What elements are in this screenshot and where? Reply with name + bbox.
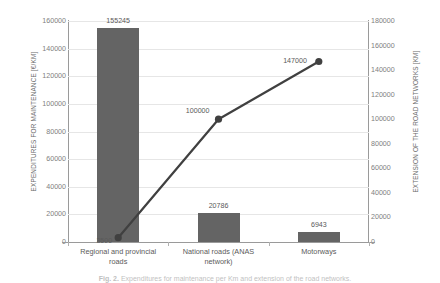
caption-label: Fig. 2. (99, 275, 119, 282)
x-tick-mark (369, 242, 370, 246)
y-tick-label-left: 80000 (12, 128, 66, 136)
y-tick-label-left: 40000 (12, 183, 66, 191)
x-axis-categories: Regional and provincial roadsNational ro… (68, 247, 369, 273)
y-tick-label-right: 160000 (371, 42, 395, 50)
plot-area: 1552452078669433500100000147000 (68, 21, 369, 242)
y-axis-left: 0200004000060000800001000001200001400001… (12, 0, 66, 283)
y-tick-label-right: 60000 (371, 164, 391, 172)
x-category-label: Regional and provincial roads (68, 247, 168, 273)
y-tick-label-left: 140000 (12, 45, 66, 53)
y-tick-label-left: 0 (12, 238, 66, 246)
line-marker (115, 234, 122, 241)
x-category-label: Motorways (269, 247, 369, 273)
y-tick-label-right: 100000 (371, 115, 395, 123)
y-tick-label-right: 80000 (371, 140, 391, 148)
y-tick-label-right: 20000 (371, 213, 391, 221)
x-tick-mark (168, 242, 169, 246)
figure-caption: Fig. 2. Expenditures for maintenance per… (55, 274, 395, 283)
line-data-label: 3500 (96, 237, 112, 245)
bar-data-label: 6943 (311, 221, 327, 229)
y-tick-label-right: 120000 (371, 91, 395, 99)
line-data-label: 147000 (283, 57, 307, 65)
y-tick-label-left: 20000 (12, 210, 66, 218)
bar-data-label: 20786 (209, 202, 229, 210)
x-tick-mark (68, 242, 69, 246)
y-axis-right: 0200004000060000800001000001200001400001… (371, 0, 421, 283)
line-path (118, 62, 319, 238)
x-tick-mark (269, 242, 270, 246)
y-tick-label-right: 140000 (371, 66, 395, 74)
y-tick-label-left: 120000 (12, 72, 66, 80)
y-tick-label-right: 180000 (371, 17, 395, 25)
y-tick-label-left: 160000 (12, 17, 66, 25)
chart-figure: EXPENDITURES FOR MAINTENANCE [€/KM] EXTE… (0, 0, 440, 283)
y-tick-label-left: 100000 (12, 100, 66, 108)
line-marker (315, 58, 322, 65)
bar-data-label: 155245 (106, 17, 130, 25)
line-data-label: 100000 (186, 107, 210, 115)
line-marker (215, 116, 222, 123)
x-category-label: National roads (ANAS network) (168, 247, 268, 273)
y-tick-label-left: 60000 (12, 155, 66, 163)
y-tick-label-right: 40000 (371, 189, 391, 197)
caption-text: Expenditures for maintenance per Km and … (121, 275, 351, 282)
